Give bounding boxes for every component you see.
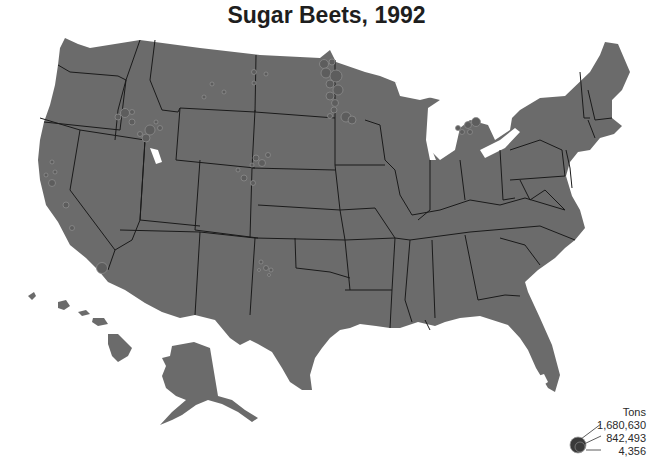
legend-value-medium: 842,493 (606, 432, 646, 444)
legend-unit-label: Tons (623, 406, 646, 418)
us-map (0, 0, 653, 470)
legend: Tons 1,680,630 842,493 4,356 (536, 406, 646, 466)
legend-value-large: 1,680,630 (597, 419, 646, 431)
legend-value-small: 4,356 (618, 445, 646, 457)
